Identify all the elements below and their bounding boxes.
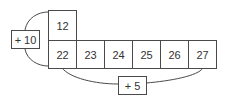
cell-top-12: 12 bbox=[48, 10, 77, 41]
operator-label: + 10 bbox=[15, 34, 37, 46]
arc-plus10-to-22 bbox=[25, 49, 48, 66]
cell-row-2: 24 bbox=[104, 40, 133, 69]
operator-plus-10: + 10 bbox=[11, 30, 40, 49]
cell-row-5: 27 bbox=[188, 40, 217, 69]
cell-value: 22 bbox=[56, 49, 68, 61]
cell-value: 26 bbox=[168, 49, 180, 61]
cell-value: 27 bbox=[196, 49, 208, 61]
cell-value: 23 bbox=[84, 49, 96, 61]
operator-label: + 5 bbox=[125, 80, 141, 92]
arc-22-to-plus5 bbox=[62, 68, 118, 84]
arc-12-to-plus10 bbox=[25, 12, 48, 30]
cell-row-0: 22 bbox=[48, 40, 77, 69]
cell-row-4: 26 bbox=[160, 40, 189, 69]
operator-plus-5: + 5 bbox=[118, 76, 147, 95]
arc-plus5-to-27 bbox=[146, 68, 203, 83]
cell-value: 25 bbox=[140, 49, 152, 61]
cell-value: 24 bbox=[112, 49, 124, 61]
cell-row-3: 25 bbox=[132, 40, 161, 69]
cell-value: 12 bbox=[56, 20, 68, 32]
cell-row-1: 23 bbox=[76, 40, 105, 69]
